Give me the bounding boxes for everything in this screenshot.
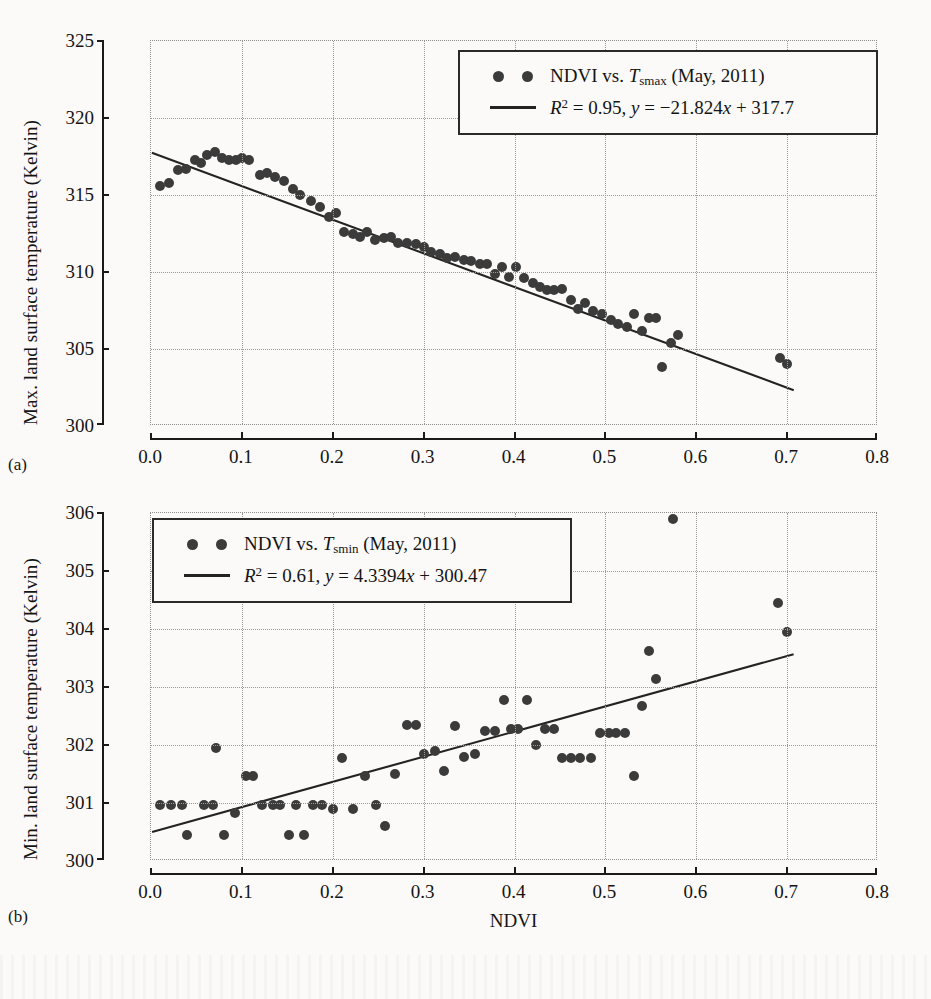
data-point xyxy=(557,284,567,294)
data-point xyxy=(637,326,647,336)
data-point xyxy=(644,646,654,656)
data-point xyxy=(482,259,492,269)
x-tick-label: 0.8 xyxy=(865,882,889,901)
chart-panel-b: Min. land surface temperature (Kelvin) 3… xyxy=(0,472,931,972)
data-point xyxy=(657,362,667,372)
legend-b: NDVI vs. Tsmin (May, 2011) R2 = 0.61, y … xyxy=(152,518,572,603)
legend-row-fit-b: R2 = 0.61, y = 4.3394x + 300.47 xyxy=(170,560,550,591)
data-point xyxy=(470,749,480,759)
x-tick-label: 0.2 xyxy=(320,882,344,901)
data-point xyxy=(490,726,500,736)
y-axis-tick xyxy=(102,570,109,572)
grid-line-vertical xyxy=(787,513,788,859)
x-axis-tick xyxy=(332,867,334,873)
x-tick-label: 0.8 xyxy=(865,447,889,466)
legend-marker-line-icon-b xyxy=(170,574,244,576)
data-point xyxy=(620,728,630,738)
data-point xyxy=(155,800,165,810)
grid-line-horizontal xyxy=(151,803,876,804)
data-point xyxy=(279,176,289,186)
data-point xyxy=(177,800,187,810)
x-tick-label: 0.5 xyxy=(593,447,617,466)
y-axis-tick xyxy=(102,802,109,804)
data-point xyxy=(450,721,460,731)
data-point xyxy=(299,830,309,840)
x-tick-label: 0.6 xyxy=(683,447,707,466)
data-point xyxy=(291,800,301,810)
x-axis-tick xyxy=(604,867,606,873)
data-point xyxy=(575,753,585,763)
data-point xyxy=(511,262,521,272)
grid-line-horizontal xyxy=(151,195,876,196)
y-tick-label: 303 xyxy=(66,677,95,696)
x-tick-label: 0.3 xyxy=(411,882,435,901)
data-point xyxy=(651,313,661,323)
data-point xyxy=(586,753,596,763)
data-point xyxy=(348,804,358,814)
y-tick-label: 300 xyxy=(66,416,95,435)
y-tick-label: 315 xyxy=(66,185,95,204)
y-tick-label: 301 xyxy=(66,793,95,812)
legend-row-scatter-b: NDVI vs. Tsmin (May, 2011) xyxy=(170,529,550,560)
y-tick-label: 300 xyxy=(66,851,95,870)
data-point xyxy=(181,164,191,174)
data-point xyxy=(673,330,683,340)
data-point xyxy=(380,821,390,831)
x-tick-label: 0.7 xyxy=(774,882,798,901)
data-point xyxy=(651,674,661,684)
data-point xyxy=(317,800,327,810)
data-point xyxy=(411,720,421,730)
data-point xyxy=(566,295,576,305)
data-point xyxy=(499,695,509,705)
data-point xyxy=(497,262,507,272)
data-point xyxy=(637,701,647,711)
data-point xyxy=(248,771,258,781)
grid-line-vertical xyxy=(605,513,606,859)
y-tick-label: 305 xyxy=(66,339,95,358)
y-tick-label: 306 xyxy=(66,503,95,522)
data-point xyxy=(629,771,639,781)
grid-line-horizontal xyxy=(151,687,876,688)
data-point xyxy=(275,800,285,810)
grid-line-vertical xyxy=(424,41,425,424)
data-point xyxy=(549,724,559,734)
x-tick-label: 0.4 xyxy=(502,447,526,466)
x-axis-tick xyxy=(423,432,425,438)
panel-tag-b: (b) xyxy=(8,907,28,927)
y-axis-tick xyxy=(102,271,109,273)
data-point xyxy=(182,830,192,840)
x-tick-label: 0.1 xyxy=(229,882,253,901)
x-tick-label: 0.7 xyxy=(774,447,798,466)
y-axis-line-b xyxy=(102,512,104,860)
data-point xyxy=(504,272,514,282)
y-axis-title-b: Min. land surface temperature (Kelvin) xyxy=(20,558,42,860)
data-point xyxy=(284,830,294,840)
grid-line-horizontal xyxy=(151,349,876,350)
data-point xyxy=(244,155,254,165)
legend-label-scatter-a: NDVI vs. Tsmax (May, 2011) xyxy=(550,65,764,89)
data-point xyxy=(668,514,678,524)
y-axis-tick xyxy=(102,194,109,196)
x-axis-tick xyxy=(786,867,788,873)
y-axis-tick xyxy=(102,744,109,746)
y-axis-tick xyxy=(102,628,109,630)
x-axis-line-a xyxy=(150,438,877,440)
legend-row-fit-a: R2 = 0.95, y = −21.824x + 317.7 xyxy=(476,92,856,123)
x-axis-tick xyxy=(514,432,516,438)
data-point xyxy=(257,800,267,810)
x-axis-tick xyxy=(241,867,243,873)
y-tick-label: 304 xyxy=(66,619,95,638)
y-axis-title-a: Max. land surface temperature (Kelvin) xyxy=(20,120,42,425)
data-point xyxy=(315,202,325,212)
x-axis-title: NDVI xyxy=(490,910,538,932)
x-tick-label: 0.5 xyxy=(593,882,617,901)
data-point xyxy=(166,800,176,810)
data-point xyxy=(430,746,440,756)
y-axis-line-a xyxy=(102,40,104,425)
legend-marker-circle-icon-b xyxy=(170,539,244,550)
grid-line-vertical xyxy=(333,41,334,424)
data-point xyxy=(439,766,449,776)
figure-root: Max. land surface temperature (Kelvin) 3… xyxy=(0,0,931,999)
x-tick-label: 0.6 xyxy=(683,882,707,901)
legend-label-fit-a: R2 = 0.95, y = −21.824x + 317.7 xyxy=(550,96,794,119)
